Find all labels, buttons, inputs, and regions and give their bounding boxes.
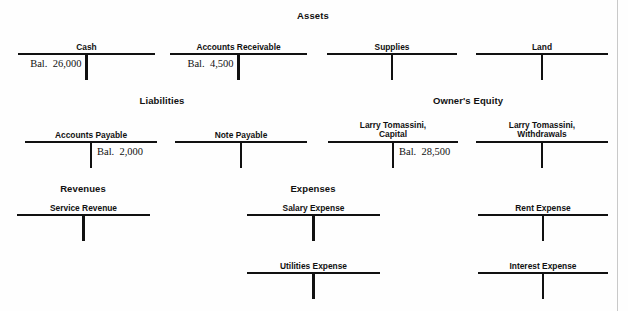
entry-amount: 28,500 <box>421 146 450 157</box>
t-account-title-line: Accounts Payable <box>55 130 127 140</box>
t-account-debit-entry-cash: Bal. 26,000 <box>30 58 81 70</box>
t-account-title-line: Salary Expense <box>283 203 345 213</box>
t-account-worksheet: AssetsLiabilitiesOwner's EquityRevenuesE… <box>0 0 628 311</box>
t-account-land: Land <box>476 53 608 81</box>
t-account-accounts-receivable: Accounts ReceivableBal. 4,500 <box>170 53 307 81</box>
t-account-salary-expense: Salary Expense <box>247 214 380 242</box>
t-account-utilities-expense: Utilities Expense <box>247 272 380 300</box>
t-account-center-rule-utilities-expense <box>312 274 314 299</box>
t-account-title-line: Land <box>532 42 552 52</box>
t-account-center-rule-cash <box>85 55 87 80</box>
t-account-title-accounts-payable: Accounts Payable <box>55 130 127 140</box>
t-account-larry-tomassini-withdrawals: Larry Tomassini,Withdrawals <box>476 141 608 169</box>
t-account-center-rule-larry-tomassini-capital <box>392 143 394 168</box>
t-account-center-rule-land <box>541 55 543 80</box>
entry-label: Bal. <box>30 58 47 69</box>
t-account-credit-entry-larry-tomassini-capital: Bal. 28,500 <box>399 146 450 158</box>
t-account-center-rule-service-revenue <box>82 216 84 241</box>
t-account-note-payable: Note Payable <box>175 141 307 169</box>
section-heading-revenues: Revenues <box>60 183 106 194</box>
t-account-title-line: Capital <box>360 130 426 140</box>
t-account-center-rule-larry-tomassini-withdrawals <box>541 143 543 168</box>
t-account-title-line: Rent Expense <box>515 203 570 213</box>
t-account-title-line: Cash <box>76 42 96 52</box>
entry-amount: 4,500 <box>210 58 234 69</box>
section-heading-liabilities: Liabilities <box>140 95 185 106</box>
entry-label: Bal. <box>97 146 114 157</box>
t-account-credit-entry-accounts-payable: Bal. 2,000 <box>97 146 143 158</box>
t-account-center-rule-interest-expense <box>542 274 544 299</box>
section-heading-assets: Assets <box>297 10 329 21</box>
t-account-title-rent-expense: Rent Expense <box>515 203 570 213</box>
t-account-supplies: Supplies <box>327 53 457 81</box>
t-account-title-salary-expense: Salary Expense <box>283 203 345 213</box>
t-account-title-line: Accounts Receivable <box>196 42 280 52</box>
t-account-title-line: Withdrawals <box>509 130 575 140</box>
t-account-rent-expense: Rent Expense <box>478 214 608 242</box>
t-account-center-rule-note-payable <box>240 143 242 168</box>
t-account-title-larry-tomassini-capital: Larry Tomassini,Capital <box>360 121 426 140</box>
t-account-title-line: Supplies <box>375 42 410 52</box>
t-account-title-note-payable: Note Payable <box>215 130 268 140</box>
t-account-title-land: Land <box>532 42 552 52</box>
t-account-title-supplies: Supplies <box>375 42 410 52</box>
t-account-title-line: Utilities Expense <box>280 261 347 271</box>
t-account-title-larry-tomassini-withdrawals: Larry Tomassini,Withdrawals <box>509 121 575 140</box>
t-account-larry-tomassini-capital: Larry Tomassini,CapitalBal. 28,500 <box>328 141 458 169</box>
page-edge-line <box>617 0 618 311</box>
section-heading-expenses: Expenses <box>290 183 335 194</box>
t-account-interest-expense: Interest Expense <box>478 272 608 300</box>
entry-label: Bal. <box>399 146 416 157</box>
t-account-accounts-payable: Accounts PayableBal. 2,000 <box>25 141 157 169</box>
t-account-debit-entry-accounts-receivable: Bal. 4,500 <box>187 58 233 70</box>
t-account-title-service-revenue: Service Revenue <box>50 203 117 213</box>
t-account-title-accounts-receivable: Accounts Receivable <box>196 42 280 52</box>
t-account-title-interest-expense: Interest Expense <box>509 261 576 271</box>
t-account-center-rule-rent-expense <box>542 216 544 241</box>
t-account-center-rule-accounts-payable <box>90 143 92 168</box>
t-account-center-rule-accounts-receivable <box>237 55 239 80</box>
t-account-center-rule-salary-expense <box>312 216 314 241</box>
section-heading-owners-equity: Owner's Equity <box>433 95 503 106</box>
t-account-service-revenue: Service Revenue <box>17 214 150 242</box>
entry-label: Bal. <box>187 58 204 69</box>
t-account-cash: CashBal. 26,000 <box>18 53 155 81</box>
t-account-title-utilities-expense: Utilities Expense <box>280 261 347 271</box>
entry-amount: 2,000 <box>119 146 143 157</box>
t-account-title-line: Note Payable <box>215 130 268 140</box>
entry-amount: 26,000 <box>53 58 82 69</box>
t-account-title-line: Service Revenue <box>50 203 117 213</box>
t-account-title-cash: Cash <box>76 42 96 52</box>
t-account-center-rule-supplies <box>391 55 393 80</box>
t-account-title-line: Interest Expense <box>509 261 576 271</box>
